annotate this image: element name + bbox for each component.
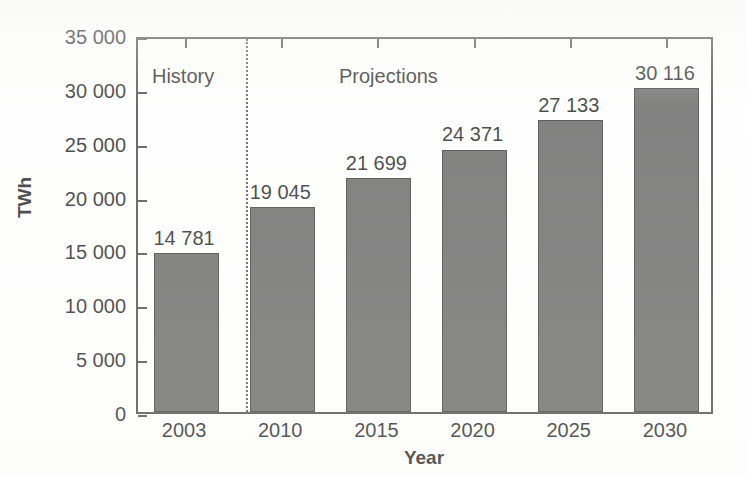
x-axis-tick-top <box>185 39 187 48</box>
y-axis-tick-label: 10 000 <box>0 295 126 318</box>
x-axis-tick-label: 2030 <box>643 419 688 442</box>
y-axis-tick <box>138 253 147 255</box>
y-axis-tick-label: 25 000 <box>0 133 126 156</box>
y-axis-tick <box>138 92 147 94</box>
bar-value-label: 19 045 <box>250 181 311 204</box>
x-axis-tick-label: 2003 <box>162 419 207 442</box>
x-axis-tick-top <box>377 39 379 48</box>
x-axis-tick-label: 2025 <box>547 419 592 442</box>
x-axis-tick-top <box>570 39 572 48</box>
y-axis-tick <box>138 415 147 417</box>
bar-value-label: 27 133 <box>538 94 599 117</box>
y-axis-tick <box>138 38 147 40</box>
x-axis-title: Year <box>404 447 444 469</box>
bar <box>634 88 699 412</box>
y-axis-tick <box>138 361 147 363</box>
y-axis-tick-label: 15 000 <box>0 241 126 264</box>
y-axis-tick-label: 0 <box>0 403 126 426</box>
y-axis-tick <box>138 307 147 309</box>
x-axis-tick-label: 2010 <box>258 419 303 442</box>
bar-value-label: 21 699 <box>346 152 407 175</box>
y-axis-tick <box>138 200 147 202</box>
history-projection-divider <box>246 39 248 412</box>
bar <box>538 120 603 412</box>
y-axis-tick-label: 35 000 <box>0 26 126 49</box>
y-axis-tick-label: 30 000 <box>0 79 126 102</box>
bar <box>154 253 219 412</box>
x-axis-tick-top <box>666 39 668 48</box>
bar-value-label: 30 116 <box>635 62 695 85</box>
y-axis-tick-label: 20 000 <box>0 187 126 210</box>
bar-value-label: 14 781 <box>153 227 214 250</box>
bar <box>346 178 411 412</box>
region-annotation: History <box>152 65 214 88</box>
bar <box>250 207 315 412</box>
plot-frame: HistoryProjections <box>136 37 713 414</box>
chart-figure: TWh 05 00010 00015 00020 00025 00030 000… <box>0 0 746 478</box>
y-axis-tick-label: 5 000 <box>0 349 126 372</box>
plot-area: HistoryProjections <box>138 39 711 412</box>
y-axis-tick <box>138 146 147 148</box>
x-axis-tick-label: 2020 <box>450 419 495 442</box>
region-annotation: Projections <box>339 65 438 88</box>
x-axis-tick-top <box>281 39 283 48</box>
x-axis-tick-top <box>474 39 476 48</box>
bar-value-label: 24 371 <box>442 123 503 146</box>
x-axis-tick-label: 2015 <box>354 419 399 442</box>
bar <box>442 150 507 413</box>
